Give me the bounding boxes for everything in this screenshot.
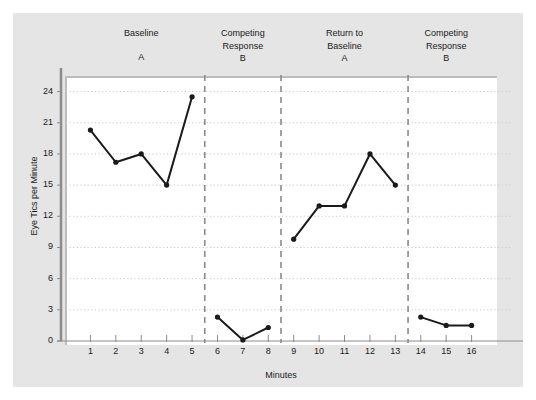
data-point [113, 160, 118, 165]
data-point [393, 183, 398, 188]
data-point [469, 323, 474, 328]
data-series-line-0 [90, 97, 192, 185]
data-point [215, 314, 220, 319]
data-point [240, 337, 245, 342]
data-point [164, 183, 169, 188]
chart-plot-area [13, 13, 523, 387]
data-point [139, 151, 144, 156]
data-point [444, 323, 449, 328]
data-point [342, 203, 347, 208]
data-point [418, 314, 423, 319]
data-point [317, 203, 322, 208]
data-series-line-2 [294, 154, 396, 239]
data-point [88, 127, 93, 132]
data-point [291, 237, 296, 242]
data-point [367, 151, 372, 156]
data-point [266, 325, 271, 330]
chart-figure: BaselineACompeting ResponseBReturn to Ba… [13, 13, 523, 387]
data-point [189, 94, 194, 99]
